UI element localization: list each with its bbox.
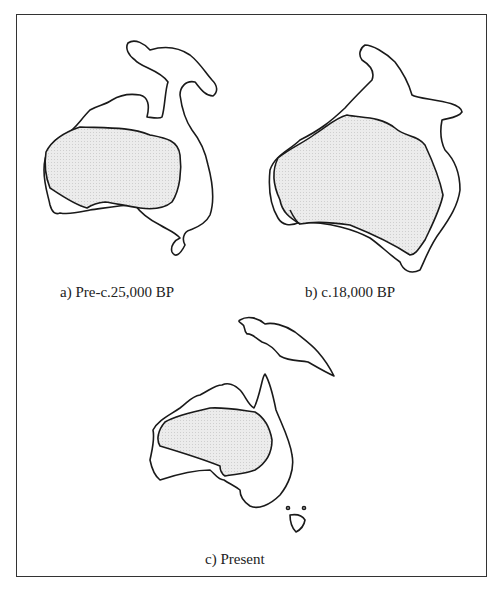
new-guinea-outline [239, 317, 334, 376]
map-panel-b [269, 45, 462, 272]
caption-panel-b: b) c.18,000 BP [305, 284, 395, 301]
tasmania-outline [290, 515, 305, 532]
island-dot [287, 507, 290, 510]
map-panel-a [44, 41, 217, 255]
arid-zone-b [274, 115, 443, 255]
arid-zone-a [45, 127, 181, 209]
map-panel-c [150, 317, 334, 532]
caption-panel-c: c) Present [205, 551, 265, 568]
island-dot [303, 507, 306, 510]
caption-panel-a: a) Pre-c.25,000 BP [60, 284, 174, 301]
arid-zone-c [158, 408, 272, 476]
